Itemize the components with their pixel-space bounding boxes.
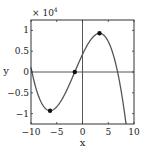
function-line xyxy=(31,33,126,124)
y-tick-label: 0 xyxy=(23,67,29,77)
local-maximum-marker xyxy=(97,31,101,35)
x-tick-label: −5 xyxy=(50,127,64,137)
y-tick-label: −0.5 xyxy=(7,88,29,98)
inflection-point-marker xyxy=(73,70,77,74)
cubic-function-chart: −10−50510 −1−0.500.51 × 104 x y xyxy=(0,0,148,148)
cubic-curve xyxy=(31,33,126,124)
x-tick-label: 0 xyxy=(80,127,86,137)
y-tick-label: 0.5 xyxy=(15,46,30,56)
x-tick-label: 5 xyxy=(105,127,111,137)
y-tick-label: −1 xyxy=(16,109,29,119)
zero-reference-lines xyxy=(31,20,134,124)
y-tick-label: 1 xyxy=(23,25,29,35)
x-axis-label: x xyxy=(80,137,86,148)
x-axis-ticks: −10−50510 xyxy=(22,20,140,137)
x-tick-label: 10 xyxy=(128,127,140,137)
y-multiplier-label: × 104 xyxy=(32,6,58,18)
x-tick-label: −10 xyxy=(22,127,41,137)
local-minimum-marker xyxy=(48,108,52,112)
y-axis-label: y xyxy=(2,65,9,76)
